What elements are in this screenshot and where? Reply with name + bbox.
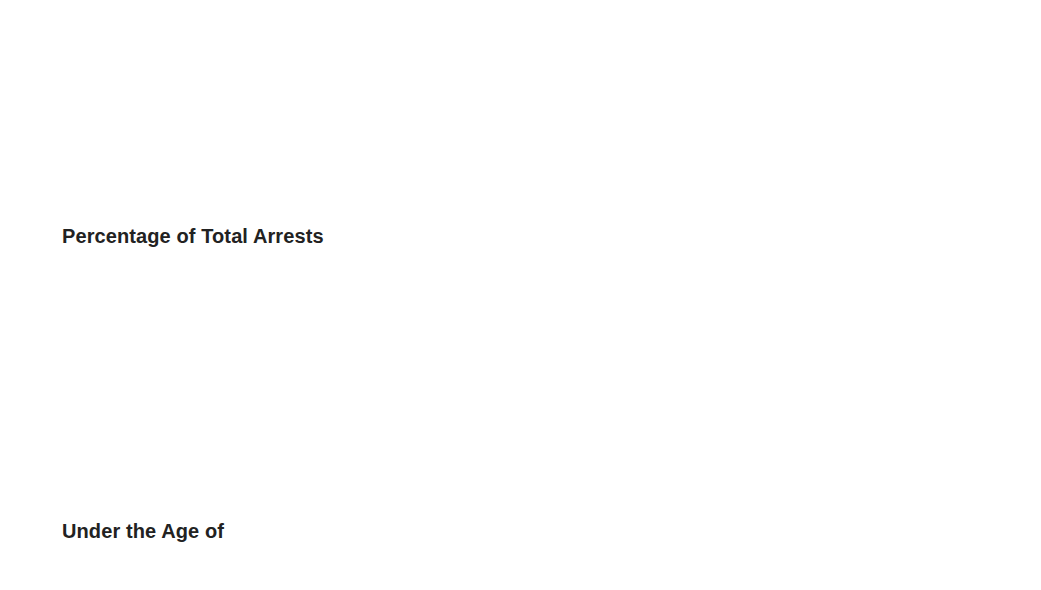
bar-chart: 5% 15 16% 18 30% 21 47% 25 Percentage of…: [0, 0, 1041, 590]
series-label: Percentage of Total Arrests: [62, 225, 324, 248]
plot-area: 5% 15 16% 18 30% 21 47% 25: [0, 0, 1041, 590]
x-axis-label: Under the Age of: [62, 520, 224, 543]
